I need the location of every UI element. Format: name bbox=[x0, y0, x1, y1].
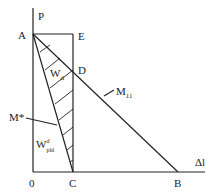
point-C-label: C bbox=[69, 177, 76, 189]
origin-label: 0 bbox=[29, 177, 35, 189]
y-axis-label: P bbox=[38, 10, 44, 22]
point-A-label: A bbox=[18, 29, 26, 41]
wpld-label: Wdpld bbox=[36, 138, 54, 153]
point-B-label: B bbox=[174, 177, 181, 189]
m11-leader bbox=[104, 90, 114, 96]
force-elongation-diagram: P A E D Wd M11 M* Wdpld Δl 0 C B bbox=[0, 0, 219, 194]
x-axis-label: Δl bbox=[195, 156, 205, 168]
m-star-leader bbox=[26, 118, 57, 125]
point-D-label: D bbox=[78, 64, 86, 76]
point-E-label: E bbox=[78, 30, 85, 42]
m-star-label: M* bbox=[9, 111, 24, 123]
line-AB bbox=[33, 34, 178, 172]
m11-label: M11 bbox=[116, 85, 133, 100]
wd-label: Wd bbox=[50, 67, 64, 82]
